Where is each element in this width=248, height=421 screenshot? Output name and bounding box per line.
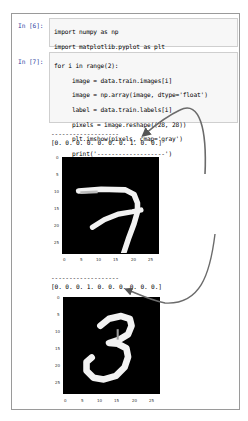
digit-image <box>63 297 160 394</box>
y-tick: 25 <box>55 380 60 385</box>
x-tick: 25 <box>148 257 153 262</box>
x-tick: 5 <box>81 398 84 403</box>
code-line: import matplotlib.pyplot as plt <box>54 43 233 50</box>
code-line: for i in range(2): <box>54 62 233 69</box>
y-tick: 15 <box>55 346 60 351</box>
cell-prompt-7: In [7]: <box>18 58 43 65</box>
y-tick: 20 <box>54 223 59 228</box>
y-tick: 0 <box>57 295 60 300</box>
x-tick: 15 <box>113 257 118 262</box>
x-tick: 25 <box>149 398 154 403</box>
digit-image <box>62 157 159 254</box>
code-line: import numpy as np <box>54 28 233 35</box>
output-label-vector: [0. 0. 0. 1. 0. 0. 0. 0. 0. 0.] <box>51 283 162 291</box>
y-tick: 10 <box>55 329 60 334</box>
code-cell-imports[interactable]: import numpy as np import matplotlib.pyp… <box>49 18 238 47</box>
x-tick: 15 <box>114 398 119 403</box>
code-line: image = data.train.images[i] <box>54 77 233 84</box>
x-tick: 20 <box>131 257 136 262</box>
y-tick: 20 <box>55 363 60 368</box>
y-tick: 5 <box>57 312 60 317</box>
y-tick: 10 <box>54 189 59 194</box>
x-tick: 10 <box>96 257 101 262</box>
x-tick: 0 <box>64 398 67 403</box>
digit-7-image <box>63 158 159 254</box>
code-line: pixels = image.reshape((28, 28)) <box>54 121 233 128</box>
output-separator: ------------------- <box>51 130 119 138</box>
code-line: label = data.train.labels[i] <box>54 106 233 113</box>
cell-prompt-6: In [6]: <box>18 22 43 29</box>
y-tick: 0 <box>56 155 59 160</box>
digit-3-image <box>64 298 160 394</box>
x-tick: 5 <box>80 257 83 262</box>
code-cell-loop[interactable]: for i in range(2): image = data.train.im… <box>49 52 238 123</box>
x-tick: 0 <box>63 257 66 262</box>
y-tick: 5 <box>56 172 59 177</box>
output-label-vector: [0. 0. 0. 0. 0. 0. 0. 1. 0. 0.] <box>51 139 162 147</box>
code-line: image = np.array(image, dtype='float') <box>54 91 233 98</box>
x-tick: 20 <box>132 398 137 403</box>
y-tick: 25 <box>54 240 59 245</box>
y-tick: 15 <box>54 206 59 211</box>
output-separator: ------------------- <box>51 274 119 282</box>
x-tick: 10 <box>97 398 102 403</box>
